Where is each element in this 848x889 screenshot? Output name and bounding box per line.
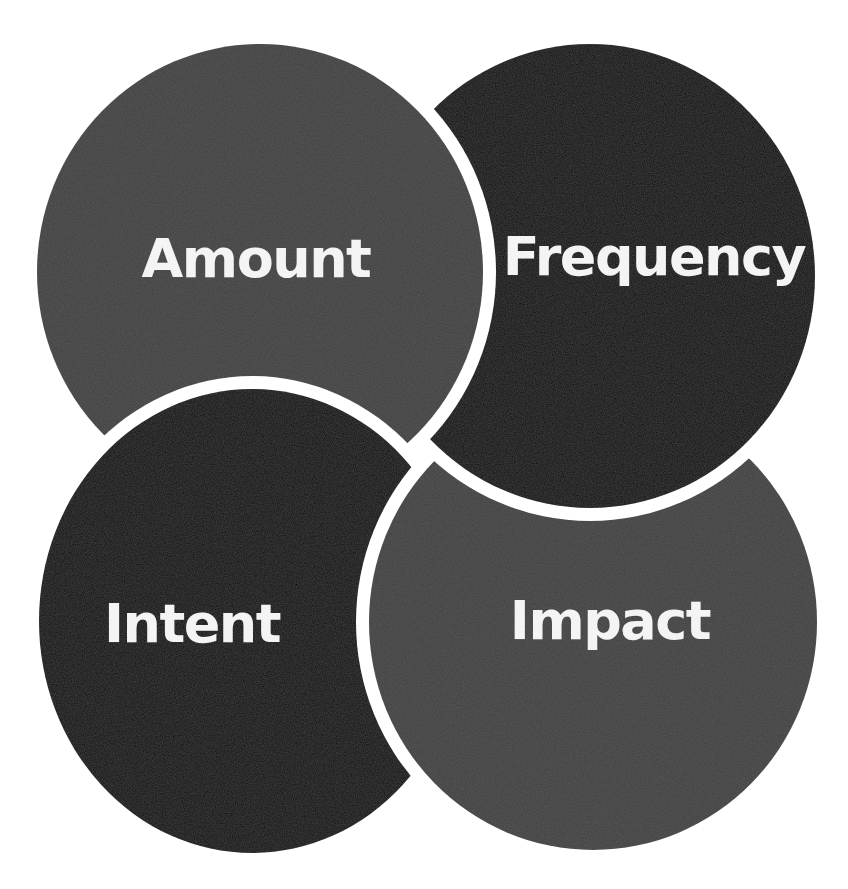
label-amount: Amount <box>142 232 371 286</box>
venn-diagram <box>0 0 848 889</box>
label-impact: Impact <box>510 594 710 648</box>
label-intent: Intent <box>104 597 280 651</box>
label-frequency: Frequency <box>503 230 806 284</box>
